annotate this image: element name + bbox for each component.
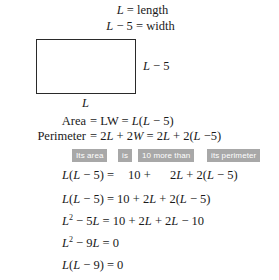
- aligned-equation-left: L(L − 5) =: [0, 166, 128, 184]
- formula-body-perimeter: = 2L + 2W = 2L + 2(L −5): [90, 129, 221, 144]
- chip-its-area: Its area: [72, 149, 107, 162]
- solution-step-3: L2 − 9L = 0: [62, 232, 279, 254]
- solution-step-4: L(L − 9) = 0: [62, 254, 279, 276]
- rectangle-shape: [36, 39, 136, 94]
- aligned-equation-right: 2L + 2(L − 5): [170, 166, 238, 184]
- chip-its-perimeter: its perimeter: [207, 149, 260, 162]
- definition-width: L − 5 = width: [0, 18, 279, 34]
- chip-10-more-than: 10 more than: [138, 149, 194, 162]
- rectangle-bottom-label: L: [82, 96, 89, 111]
- aligned-equation-row: L(L − 5) = 10 + 2L + 2(L − 5): [0, 166, 279, 184]
- solution-step-2: L2 − 5L = 10 + 2L + 2L − 10: [62, 210, 279, 232]
- formula-label-area: Area: [0, 114, 90, 129]
- solution-step-1: L(L − 5) = 10 + 2L + 2(L − 5): [62, 188, 279, 210]
- rectangle-figure: L − 5 L: [0, 36, 279, 108]
- formula-label-perimeter: Perimeter: [0, 129, 90, 144]
- formula-body-area: = LW = L(L − 5): [90, 114, 174, 129]
- aligned-equation-middle: 10 +: [128, 166, 170, 184]
- formula-row-perimeter: Perimeter = 2L + 2W = 2L + 2(L −5): [0, 129, 279, 144]
- rectangle-side-label: L − 5: [143, 59, 170, 74]
- variable-definitions: L = length L − 5 = width: [0, 2, 279, 34]
- formula-block: Area = LW = L(L − 5) Perimeter = 2L + 2W…: [0, 114, 279, 144]
- aligned-equation: L(L − 5) = 10 + 2L + 2(L − 5): [0, 166, 279, 184]
- worksheet-page: L = length L − 5 = width L − 5 L Area = …: [0, 0, 279, 280]
- solution-steps: L(L − 5) = 10 + 2L + 2(L − 5) L2 − 5L = …: [62, 188, 279, 276]
- translation-strip: Its area is 10 more than its perimeter: [0, 149, 279, 164]
- chip-is: is: [118, 149, 132, 162]
- definition-length: L = length: [0, 2, 279, 18]
- formula-row-area: Area = LW = L(L − 5): [0, 114, 279, 129]
